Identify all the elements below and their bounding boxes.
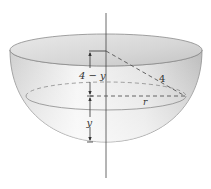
hemisphere-bowl-diagram: 4 − y y 4 r [0, 0, 211, 189]
label-y: y [86, 117, 93, 128]
label-4-minus-y: 4 − y [78, 70, 106, 81]
label-hypotenuse-4: 4 [159, 73, 165, 84]
label-r: r [143, 97, 148, 107]
